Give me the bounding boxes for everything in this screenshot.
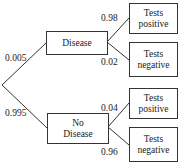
prob-disease: 0.005 [5, 53, 26, 63]
prob-disease-positive: 0.98 [101, 13, 118, 23]
branch-root-disease [2, 43, 46, 85]
node-no-disease: NoDisease [47, 113, 109, 144]
prob-nodisease-positive: 0.04 [101, 103, 118, 113]
node-disease-tests-negative: Testsnegative [129, 42, 178, 77]
node-disease: Disease [46, 31, 108, 55]
prob-no-disease: 0.995 [5, 108, 26, 118]
node-disease-tests-positive: Testspositive [129, 3, 178, 34]
node-disease-label: Disease [62, 38, 92, 49]
branch-root-no-disease [2, 85, 47, 128]
node-no-disease-label: NoDisease [63, 118, 93, 140]
prob-disease-negative: 0.02 [101, 57, 118, 67]
node-nodisease-tests-positive: Testspositive [129, 88, 178, 119]
branch-nodisease-negative [108, 127, 129, 145]
node-nodisease-tests-negative: Testsnegative [129, 127, 178, 162]
prob-nodisease-negative: 0.96 [101, 147, 118, 157]
